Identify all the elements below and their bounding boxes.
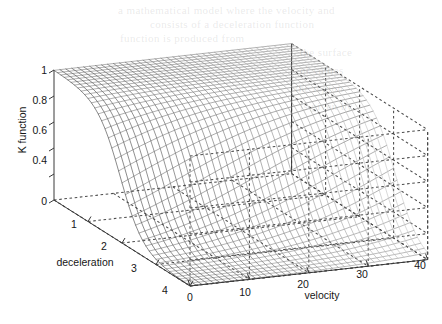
x-tick-label-40: 40 (414, 259, 426, 271)
surface-plot: 1 0.8 0.6 0.4 0 K function 1 2 3 4 decel… (0, 0, 442, 324)
z-tick-label-0: 0 (41, 195, 47, 207)
z-tick-label-0.4: 0.4 (32, 154, 47, 166)
z-tick-label-0.8: 0.8 (32, 94, 47, 106)
figure-canvas: a mathematical model where the velocity … (0, 0, 442, 324)
mesh-surface (54, 44, 428, 286)
z-axis-title: K function (16, 106, 28, 153)
x-tick-label-0: 0 (187, 291, 193, 303)
y-tick-label-3: 3 (131, 262, 137, 274)
x-tick-label-10: 10 (239, 286, 251, 298)
y-tick-label-1: 1 (71, 218, 77, 230)
y-tick-label-2: 2 (101, 240, 107, 252)
z-tick-label-0.6: 0.6 (32, 124, 47, 136)
y-tick-label-4: 4 (162, 284, 168, 296)
x-tick-label-30: 30 (356, 268, 368, 280)
tick-marks (49, 70, 428, 286)
y-axis-title: deceleration (56, 256, 113, 268)
z-tick-label-1: 1 (41, 64, 47, 76)
x-axis-title: velocity (304, 289, 340, 301)
